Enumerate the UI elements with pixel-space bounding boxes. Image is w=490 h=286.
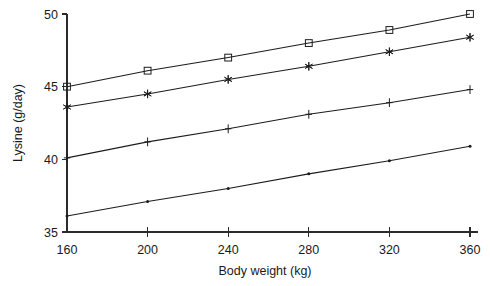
y-tick-label-50: 50 [44,8,58,22]
x-tick-label-240: 240 [218,243,239,257]
x-tick-label-160: 160 [57,243,78,257]
lysine-vs-body-weight-line-chart: 35404550 160200240280320360 Body weight … [0,0,490,286]
x-tick-label-200: 200 [137,243,158,257]
x-tick-label-360: 360 [460,243,481,257]
chart-figure: 35404550 160200240280320360 Body weight … [0,0,490,286]
y-tick-label-45: 45 [44,80,58,94]
series-dots-marker [469,145,472,148]
y-tick-label-40: 40 [44,153,58,167]
series-dots-marker [307,172,310,175]
x-tick-label-320: 320 [379,243,400,257]
x-axis-title: Body weight (kg) [218,264,311,278]
series-dots-marker [227,187,230,190]
series-dots-marker [146,200,149,203]
y-axis-title: Lysine (g/day) [11,84,25,162]
series-dots-marker [388,159,391,162]
series-dots-marker [66,215,69,218]
y-tick-label-35: 35 [44,226,58,240]
x-tick-label-280: 280 [298,243,319,257]
